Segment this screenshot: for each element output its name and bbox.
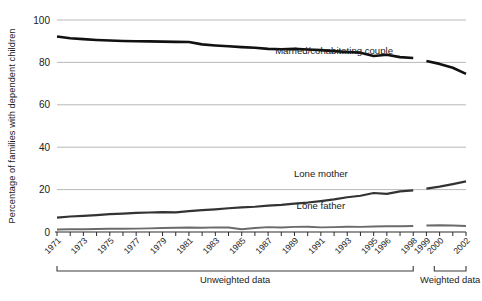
series-line-3	[426, 225, 466, 226]
chart-container: 020406080100 Percentage of families with…	[0, 0, 482, 301]
y-axis-tick-label: 100	[33, 15, 50, 26]
y-axis-tick-label: 20	[39, 184, 51, 195]
y-axis-tick-label: 0	[44, 227, 50, 238]
series-label-2: Lone mother	[294, 168, 349, 179]
range-bracket-label: Weighted data	[420, 274, 481, 285]
series-label-3: Lone father	[297, 200, 346, 211]
y-axis-tick-label: 60	[39, 99, 51, 110]
chart-background	[0, 0, 482, 301]
y-axis-tick-label: 40	[39, 142, 51, 153]
series-label-1: Married/cohabitating couple	[275, 45, 393, 56]
range-bracket-label: Unweighted data	[200, 274, 271, 285]
y-axis-tick-label: 80	[39, 57, 51, 68]
y-axis-title: Percentage of families with dependent ch…	[7, 28, 17, 223]
line-chart: 020406080100 Percentage of families with…	[0, 0, 482, 301]
